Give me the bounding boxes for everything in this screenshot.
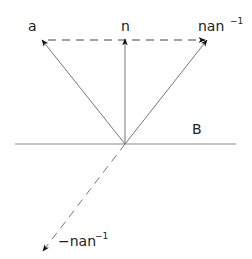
- reflection-diagram: a n nan −1 B −nan −1: [0, 0, 252, 259]
- label-n: n: [121, 18, 130, 34]
- label-nan-inverse: nan: [198, 18, 224, 34]
- label-nan-base: nan: [198, 18, 224, 34]
- label-nan-inverse-exp: −1: [230, 16, 243, 26]
- arrow-a: [42, 40, 125, 144]
- label-neg-nan-inverse-exp: −1: [95, 231, 108, 241]
- label-neg-nan-inverse: −nan: [58, 233, 96, 249]
- label-a: a: [28, 18, 37, 34]
- label-B: B: [192, 121, 202, 137]
